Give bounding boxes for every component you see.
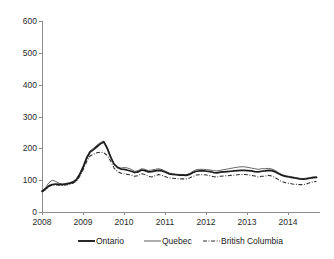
y-tick-label-200: 200	[23, 143, 37, 153]
chart-canvas: 600 500 400 300 200 100 0	[0, 0, 334, 259]
chart-legend: Ontario Quebec British Columbia	[78, 236, 283, 246]
x-axis-tick-labels: 2008 2009 2010 2011 2012 2013 2014	[33, 217, 298, 227]
x-tick-label-2009: 2009	[74, 217, 93, 227]
x-tick-label-2014: 2014	[279, 217, 298, 227]
x-tick-label-2012: 2012	[197, 217, 216, 227]
line-chart-figure: 600 500 400 300 200 100 0	[0, 0, 334, 259]
y-axis-tick-labels: 600 500 400 300 200 100 0	[23, 16, 37, 217]
y-tick-label-100: 100	[23, 175, 37, 185]
x-tick-label-2008: 2008	[33, 217, 52, 227]
y-tick-label-500: 500	[23, 48, 37, 58]
y-tick-label-400: 400	[23, 80, 37, 90]
x-tick-label-2013: 2013	[238, 217, 257, 227]
y-tick-label-600: 600	[23, 16, 37, 26]
y-tick-label-0: 0	[32, 207, 37, 217]
data-series-group	[42, 141, 317, 192]
legend-label-quebec: Quebec	[162, 236, 193, 246]
series-line-ontario	[42, 142, 317, 191]
x-tick-label-2010: 2010	[115, 217, 134, 227]
legend-label-ontario: Ontario	[96, 236, 124, 246]
legend-label-british-columbia: British Columbia	[221, 236, 283, 246]
y-tick-label-300: 300	[23, 112, 37, 122]
x-tick-label-2011: 2011	[156, 217, 175, 227]
